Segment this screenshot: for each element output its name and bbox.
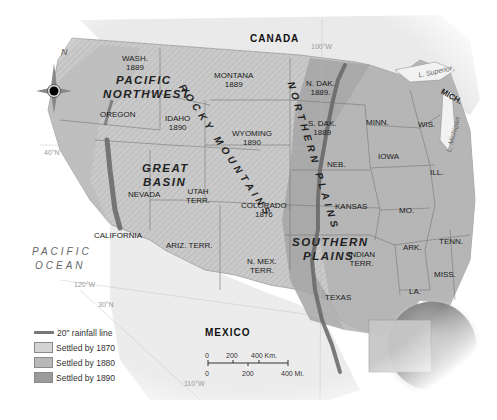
rainfall-line-swatch — [34, 331, 54, 334]
state-ark: ARK. — [403, 243, 422, 252]
swatch-1870 — [34, 342, 53, 353]
state-mo: MO. — [399, 206, 414, 215]
state-wash: WASH.1889 — [122, 54, 148, 72]
scale-km-200: 200 — [226, 351, 238, 360]
state-tenn: TENN. — [439, 237, 463, 246]
legend-item-1880: Settled by 1880 — [34, 355, 115, 370]
scale-mi-400: 400 Mi. — [281, 369, 304, 378]
grid-label-120w: 120°W — [74, 280, 95, 289]
legend-item-1890: Settled by 1890 — [34, 370, 115, 385]
compass-north-label: N — [61, 48, 68, 57]
state-ill: ILL. — [430, 168, 443, 177]
state-colorado: COLORADO1876 — [241, 201, 287, 219]
scale-mi-0: 0 — [205, 369, 209, 378]
state-s-dak: S. DAK.1889 — [308, 119, 336, 137]
grid-label-30n: 30°N — [98, 300, 114, 309]
label-southern-plains-1: SOUTHERN — [292, 236, 369, 249]
scale-mi-200: 200 — [242, 369, 254, 378]
state-minn: MINN. — [366, 118, 389, 127]
state-iowa: IOWA — [378, 152, 399, 161]
legend-item-1870: Settled by 1870 — [34, 340, 115, 355]
label-canada: CANADA — [250, 34, 299, 43]
scale-km-400: 400 Km. — [251, 351, 277, 360]
label-mexico: MEXICO — [205, 328, 250, 337]
swatch-1890 — [34, 372, 53, 383]
state-california: CALIFORNIA — [94, 231, 142, 240]
swatch-1880 — [34, 357, 53, 368]
grid-label-100w: 100°W — [311, 42, 332, 51]
state-idaho: IDAHO1890 — [165, 114, 190, 132]
grid-label-40n: 40°N — [44, 148, 60, 157]
state-ariz-terr: ARIZ. TERR. — [166, 241, 213, 250]
state-la: LA. — [409, 287, 421, 296]
label-great-basin-1: GREAT — [142, 162, 189, 175]
state-indian-terr: INDIANTERR. — [348, 250, 375, 268]
state-n-dak: N. DAK.1889. — [306, 79, 335, 97]
state-n-mex: N. MEX.TERR. — [247, 257, 277, 275]
state-kansas: KANSAS — [335, 202, 367, 211]
state-texas: TEXAS — [325, 293, 351, 302]
state-utah: UTAHTERR. — [186, 187, 210, 205]
label-pacific-nw-1: PACIFIC — [116, 74, 172, 87]
label-pacific-ocean-1: PACIFIC — [32, 245, 92, 258]
state-nevada: NEVADA — [128, 190, 160, 199]
map-legend: 20" rainfall line Settled by 1870 Settle… — [34, 325, 115, 385]
state-wis: WIS. — [418, 120, 435, 129]
grid-label-110w: 110°W — [184, 379, 205, 388]
state-wyoming: WYOMING1890 — [232, 129, 272, 147]
state-oregon: OREGON — [100, 110, 136, 119]
state-montana: MONTANA1889 — [214, 71, 253, 89]
label-southern-plains-2: PLAINS — [303, 250, 354, 263]
scale-km-0: 0 — [205, 351, 209, 360]
legend-item-rainfall: 20" rainfall line — [34, 325, 115, 340]
state-neb: NEB. — [327, 160, 346, 169]
label-pacific-ocean-2: OCEAN — [35, 259, 86, 272]
label-great-basin-2: BASIN — [143, 176, 186, 189]
state-miss: MISS. — [434, 270, 456, 279]
